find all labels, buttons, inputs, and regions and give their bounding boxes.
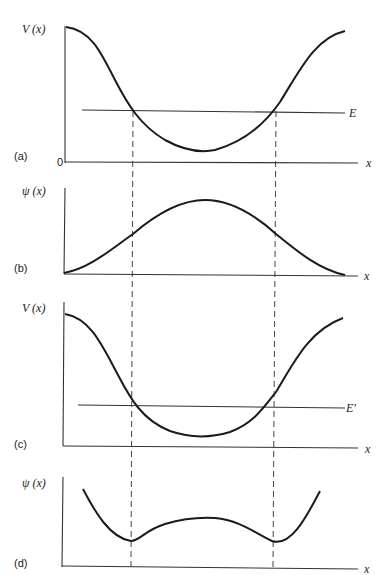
y-axis-label: V (x) <box>22 22 45 36</box>
x-axis <box>64 274 358 276</box>
origin-label: 0 <box>57 156 63 168</box>
energy-label: E <box>348 106 357 120</box>
wavefunction-curve <box>83 489 320 542</box>
y-axis-label: V (x) <box>22 301 45 315</box>
quantum-well-diagram: V (x) (a) 0 E x ψ (x) (b) x V (x) (c) E′… <box>0 0 385 575</box>
potential-curve <box>65 314 343 436</box>
energy-level-E <box>82 110 345 113</box>
x-axis-label: x <box>365 156 372 170</box>
y-axis-label: ψ (x) <box>22 476 46 490</box>
y-axis-label: ψ (x) <box>22 184 46 198</box>
x-axis-label: x <box>363 269 370 283</box>
panel-label: (b) <box>14 262 27 274</box>
energy-label: E′ <box>345 401 356 415</box>
potential-curve <box>66 27 345 151</box>
energy-level-E-prime <box>78 405 345 408</box>
panel-label: (d) <box>14 557 27 569</box>
x-axis <box>63 446 358 448</box>
x-axis-label: x <box>363 562 370 575</box>
panel-label: (a) <box>14 150 27 162</box>
panel-d: ψ (x) (d) x <box>14 476 370 575</box>
wavefunction-curve <box>64 200 345 275</box>
panel-label: (c) <box>14 438 27 450</box>
panel-b: ψ (x) (b) x <box>14 184 370 283</box>
y-axis <box>64 188 65 274</box>
panel-c: V (x) (c) E′ x <box>14 301 371 456</box>
panel-a: V (x) (a) 0 E x <box>14 22 372 170</box>
x-axis-label: x <box>364 442 371 456</box>
right-turning-point-line <box>273 111 276 567</box>
y-axis <box>62 477 63 567</box>
left-turning-point-line <box>131 111 133 567</box>
x-axis <box>65 162 358 163</box>
x-axis <box>62 566 358 569</box>
y-axis <box>63 302 64 446</box>
